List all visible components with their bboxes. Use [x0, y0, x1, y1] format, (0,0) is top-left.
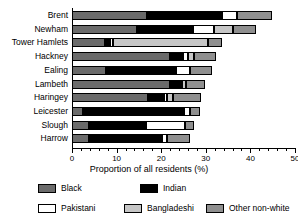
bar-segment	[146, 121, 185, 130]
legend-item: Other non-white	[206, 202, 289, 214]
x-tick-major	[250, 149, 251, 153]
bar-segment	[72, 52, 170, 61]
x-tick-minor	[286, 149, 287, 151]
chart-legend: BlackIndianPakistaniBangladeshiOther non…	[0, 180, 298, 221]
bar-segment	[72, 38, 105, 47]
legend-item: Black	[38, 182, 82, 194]
bar-segment	[72, 80, 170, 89]
x-axis-label: Proportion of all residents (%)	[0, 164, 298, 175]
x-tick-minor	[268, 149, 269, 151]
bar-segment	[83, 107, 184, 116]
bar-segment	[194, 52, 217, 61]
bar-row: Leicester	[0, 107, 298, 116]
x-tick-minor	[90, 149, 91, 151]
bar-segment	[170, 52, 183, 61]
x-tick-label: 20	[157, 154, 166, 163]
bar-row: Newham	[0, 25, 298, 34]
x-tick-minor	[108, 149, 109, 151]
category-label: Tower Hamlets	[12, 38, 68, 47]
category-label: Leicester	[34, 107, 69, 116]
bar-row: Hackney	[0, 52, 298, 61]
bar-segment	[214, 25, 233, 34]
bar-segment	[190, 107, 201, 116]
bar-row: Lambeth	[0, 80, 298, 89]
x-tick-minor	[143, 149, 144, 151]
x-tick-label: 40	[246, 154, 255, 163]
legend-swatch-icon	[38, 184, 56, 193]
x-tick-minor	[99, 149, 100, 151]
bar-segment	[89, 134, 162, 143]
bar-segment	[148, 93, 164, 102]
bar-segment	[137, 25, 193, 34]
x-tick-label: 50	[291, 154, 298, 163]
x-tick-minor	[188, 149, 189, 151]
legend-swatch-icon	[38, 204, 56, 213]
x-tick-minor	[170, 149, 171, 151]
x-tick-minor	[179, 149, 180, 151]
bar-segment	[237, 11, 272, 20]
x-tick-label: 10	[112, 154, 121, 163]
bar-segment	[185, 121, 194, 130]
x-tick-major	[206, 149, 207, 153]
x-tick-minor	[81, 149, 82, 151]
x-tick-minor	[277, 149, 278, 151]
bar-segment	[72, 11, 147, 20]
bar-segment	[147, 11, 222, 20]
legend-item: Pakistani	[38, 202, 96, 214]
bar-segment	[72, 121, 89, 130]
bar-segment	[113, 38, 209, 47]
bar-row: Ealing	[0, 66, 298, 75]
bar-row: Haringey	[0, 93, 298, 102]
category-label: Lambeth	[35, 80, 68, 89]
bar-segment	[208, 38, 222, 47]
x-tick-major	[161, 149, 162, 153]
legend-label: Other non-white	[229, 204, 289, 213]
legend-item: Indian	[140, 182, 186, 194]
bar-row: Tower Hamlets	[0, 38, 298, 47]
bar-segment	[72, 93, 148, 102]
x-axis-line	[72, 148, 296, 149]
x-tick-label: 0	[70, 154, 74, 163]
bar-chart-figure: BrentNewhamTower HamletsHackneyEalingLam…	[0, 0, 298, 221]
bar-row: Brent	[0, 11, 298, 20]
x-tick-minor	[134, 149, 135, 151]
legend-swatch-icon	[124, 204, 142, 213]
bar-segment	[167, 134, 190, 143]
bar-segment	[173, 93, 201, 102]
bar-segment	[186, 80, 205, 89]
legend-swatch-icon	[140, 184, 158, 193]
bar-segment	[72, 25, 137, 34]
category-label: Slough	[42, 121, 68, 130]
category-label: Hackney	[35, 52, 68, 61]
x-tick-minor	[224, 149, 225, 151]
x-tick-major	[295, 149, 296, 153]
bar-row: Harrow	[0, 134, 298, 143]
x-tick-minor	[152, 149, 153, 151]
bar-segment	[222, 11, 237, 20]
legend-item: Bangladeshi	[124, 202, 194, 214]
bar-segment	[193, 25, 214, 34]
legend-swatch-icon	[206, 204, 224, 213]
x-tick-minor	[126, 149, 127, 151]
bar-segment	[233, 25, 256, 34]
x-tick-major	[117, 149, 118, 153]
x-tick-minor	[241, 149, 242, 151]
x-tick-minor	[215, 149, 216, 151]
category-label: Brent	[48, 11, 68, 20]
x-tick-label: 30	[201, 154, 210, 163]
legend-label: Pakistani	[61, 204, 96, 213]
x-tick-minor	[259, 149, 260, 151]
legend-label: Black	[61, 184, 82, 193]
x-tick-major	[72, 149, 73, 153]
category-label: Newham	[34, 25, 68, 34]
category-label: Ealing	[44, 66, 68, 75]
bar-segment	[72, 66, 106, 75]
x-tick-minor	[197, 149, 198, 151]
category-label: Harrow	[41, 134, 68, 143]
bar-segment	[170, 80, 180, 89]
x-tick-minor	[233, 149, 234, 151]
bar-segment	[72, 134, 89, 143]
bar-row: Slough	[0, 121, 298, 130]
bar-segment	[106, 66, 176, 75]
legend-label: Indian	[163, 184, 186, 193]
